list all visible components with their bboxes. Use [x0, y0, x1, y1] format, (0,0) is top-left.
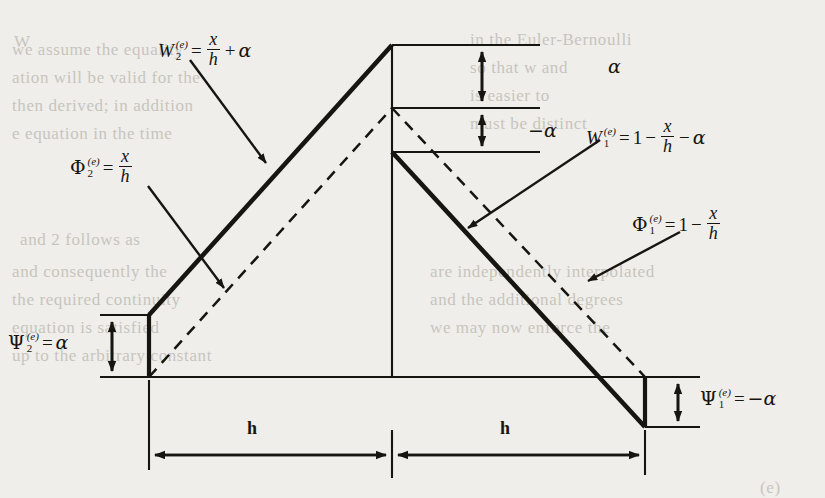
phi1-denominator: h: [707, 223, 720, 243]
label-psi2: Ψ (e) 2 = α: [8, 331, 68, 353]
w1-denominator: h: [661, 136, 674, 156]
w2-equals: =: [189, 41, 204, 60]
w1-alpha-term: α: [693, 128, 706, 147]
w1-one: 1: [633, 128, 643, 147]
w2-symbol: W: [158, 41, 174, 60]
phi2-fraction: x h: [119, 147, 132, 185]
psi1-equals: =: [732, 389, 747, 408]
psi2-subscript: 2: [27, 343, 33, 354]
psi1-superscript: (e): [719, 387, 731, 398]
alpha-negative-symbol: −α: [528, 119, 557, 141]
w1-superscript: (e): [604, 126, 616, 137]
phi1-fraction: x h: [707, 204, 720, 242]
w2-alpha-term: α: [238, 41, 251, 60]
w2-fraction: x h: [207, 30, 220, 68]
w1-minus-second: −: [677, 128, 692, 147]
phi2-denominator: h: [119, 166, 132, 186]
label-w2: W (e) 2 = x h + α: [158, 31, 251, 69]
w1-subscript: 1: [604, 138, 610, 149]
phi1-superscript: (e): [650, 213, 662, 224]
phi2-subscript: 2: [88, 168, 94, 179]
psi2-symbol: Ψ: [8, 333, 25, 352]
phi1-symbol: Φ: [632, 215, 648, 234]
w2-denominator: h: [207, 49, 220, 69]
w2-subscript: 2: [176, 51, 182, 62]
psi1-value: −α: [748, 389, 777, 408]
w2-superscript: (e): [176, 39, 188, 50]
label-alpha-negative: −α: [528, 121, 557, 140]
phi2-dashed-line: [149, 108, 392, 377]
phi1-numerator: x: [707, 204, 719, 223]
w1-numerator: x: [661, 117, 673, 136]
psi1-subscript: 1: [719, 399, 725, 410]
w1-fraction: x h: [661, 117, 674, 155]
dimension-label-left-h: h: [247, 418, 257, 439]
label-phi2: Φ (e) 2 = x h: [70, 148, 134, 186]
w2-leader-line: [190, 60, 266, 163]
dimension-label-right-h: h: [500, 418, 510, 439]
left-rising-heavy-line: [149, 45, 392, 315]
phi1-one: 1: [679, 215, 689, 234]
psi1-symbol: Ψ: [700, 389, 717, 408]
w1-leader-line: [468, 140, 600, 228]
phi2-superscript: (e): [88, 156, 100, 167]
w1-symbol: W: [586, 128, 602, 147]
label-psi1: Ψ (e) 1 = −α: [700, 387, 776, 409]
phi1-minus: −: [689, 215, 704, 234]
alpha-positive-symbol: α: [608, 55, 621, 77]
phi2-symbol: Φ: [70, 158, 86, 177]
w2-numerator: x: [207, 30, 219, 49]
phi1-equals: =: [663, 215, 678, 234]
label-phi1: Φ (e) 1 = 1 − x h: [632, 205, 722, 243]
psi2-superscript: (e): [27, 331, 39, 342]
w2-operator: +: [223, 41, 238, 60]
phi2-numerator: x: [119, 147, 131, 166]
reference-rules: [100, 45, 700, 478]
psi2-equals: =: [40, 333, 55, 352]
w1-equals: =: [617, 128, 632, 147]
heavy-warping-polyline: [149, 45, 645, 427]
phi1-subscript: 1: [650, 225, 656, 236]
phi2-equals: =: [101, 158, 116, 177]
label-alpha-positive: α: [608, 57, 621, 76]
psi2-value: α: [56, 333, 69, 352]
w1-minus-first: −: [643, 128, 658, 147]
dashed-shape-function-lines: [149, 108, 645, 377]
label-w1: W (e) 1 = 1 − x h − α: [586, 118, 706, 156]
